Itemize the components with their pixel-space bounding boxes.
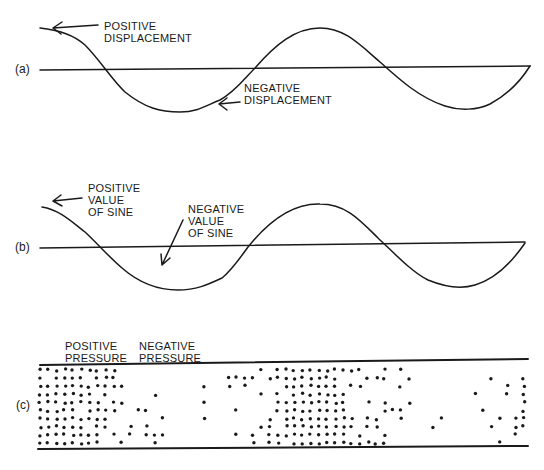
arrow-negative-displacement bbox=[219, 98, 240, 110]
annotation-positive-pressure: POSITIVE PRESSURE bbox=[65, 340, 127, 364]
arrow-negative-sine bbox=[161, 220, 183, 265]
annotation-positive-sine: POSITIVE VALUE OF SINE bbox=[88, 182, 140, 218]
panel-label-b: (b) bbox=[15, 240, 30, 254]
annotation-negative-sine: NEGATIVE VALUE OF SINE bbox=[188, 203, 244, 239]
baseline-b bbox=[40, 242, 525, 248]
panel-label-a: (a) bbox=[15, 62, 30, 76]
arrow-positive-sine bbox=[53, 195, 82, 206]
baseline-a bbox=[40, 66, 530, 70]
annotation-positive-displacement: POSITIVE DISPLACEMENT bbox=[104, 20, 192, 44]
tube-bottom-edge bbox=[38, 446, 528, 449]
diagram-canvas bbox=[0, 0, 544, 470]
annotation-negative-pressure: NEGATIVE PRESSURE bbox=[139, 340, 201, 364]
molecule-dots bbox=[37, 367, 526, 446]
panel-label-c: (c) bbox=[16, 398, 30, 412]
annotation-negative-displacement: NEGATIVE DISPLACEMENT bbox=[244, 82, 332, 106]
arrow-positive-displacement bbox=[53, 22, 98, 34]
